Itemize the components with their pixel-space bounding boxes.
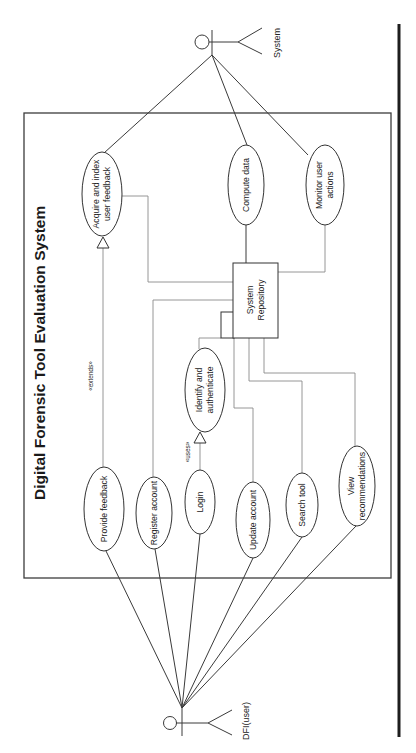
svg-text:Repository: Repository bbox=[256, 279, 266, 321]
conn-repo-search bbox=[249, 338, 302, 473]
actor-head-icon bbox=[195, 35, 209, 49]
svg-text:Acquire and index: Acquire and index bbox=[91, 159, 101, 228]
svg-text:Login: Login bbox=[195, 491, 205, 512]
assoc-user-register bbox=[155, 549, 182, 708]
extends-arrowhead-icon bbox=[97, 237, 109, 248]
extends-label: «extends» bbox=[87, 361, 94, 391]
conn-repo-update bbox=[234, 338, 253, 482]
svg-text:System: System bbox=[245, 286, 255, 315]
actor-user-label: DFI(user) bbox=[241, 702, 251, 740]
actor-head-icon bbox=[164, 717, 177, 730]
use-case-monitor[interactable]: Monitor user actions bbox=[306, 145, 344, 225]
actor-system[interactable]: System bbox=[195, 28, 282, 58]
svg-text:Compute data: Compute data bbox=[241, 158, 251, 212]
actor-system-label: System bbox=[272, 28, 282, 58]
use-case-provide-feedback[interactable]: Provide feedback bbox=[84, 467, 124, 551]
conn-repo-monitor bbox=[278, 225, 325, 272]
svg-text:recommendations: recommendations bbox=[357, 452, 367, 520]
assoc-system-monitor bbox=[212, 55, 308, 155]
use-case-identify[interactable]: Identify and authenticate bbox=[185, 348, 225, 432]
conn-repo-identify bbox=[199, 338, 221, 349]
conn-repo-acquire bbox=[122, 196, 233, 282]
svg-text:Register account: Register account bbox=[149, 480, 159, 545]
assoc-user-update bbox=[182, 558, 253, 708]
svg-text:Identify and: Identify and bbox=[194, 368, 204, 413]
system-repository[interactable]: System Repository bbox=[221, 263, 278, 338]
uses-label: «uses» bbox=[184, 441, 191, 462]
assoc-user-login bbox=[182, 534, 200, 708]
assoc-user-provide-feedback bbox=[106, 551, 182, 708]
use-case-acquire[interactable]: Acquire and index user feedback bbox=[82, 152, 122, 236]
assoc-system-compute bbox=[212, 55, 247, 145]
svg-text:Monitor user: Monitor user bbox=[314, 161, 324, 209]
use-case-diagram: Digital Forensic Tool Evaluation System … bbox=[0, 0, 416, 753]
conn-repo-view-recs bbox=[264, 338, 355, 446]
component-tab bbox=[221, 312, 234, 338]
svg-text:Update account: Update account bbox=[248, 489, 258, 550]
use-case-register[interactable]: Register account bbox=[136, 477, 172, 549]
svg-text:authenticate: authenticate bbox=[205, 366, 215, 413]
svg-text:user feedback: user feedback bbox=[102, 166, 112, 221]
assoc-system-acquire bbox=[104, 55, 212, 153]
svg-text:actions: actions bbox=[325, 171, 335, 198]
use-case-view-recs[interactable]: View recommendations bbox=[339, 446, 375, 526]
svg-text:Search tool: Search tool bbox=[297, 483, 307, 527]
actor-user[interactable]: DFI(user) bbox=[164, 702, 252, 740]
svg-text:View: View bbox=[346, 476, 356, 495]
uses-arrowhead-icon bbox=[194, 432, 206, 443]
assoc-user-search bbox=[182, 537, 302, 708]
assoc-user-view-recs bbox=[182, 526, 356, 708]
use-case-login[interactable]: Login bbox=[185, 470, 215, 534]
use-case-compute[interactable]: Compute data bbox=[228, 145, 264, 225]
svg-text:Provide feedback: Provide feedback bbox=[99, 475, 109, 542]
diagram-title: Digital Forensic Tool Evaluation System bbox=[31, 206, 48, 500]
use-case-search[interactable]: Search tool bbox=[286, 473, 318, 537]
use-case-update[interactable]: Update account bbox=[236, 482, 270, 558]
